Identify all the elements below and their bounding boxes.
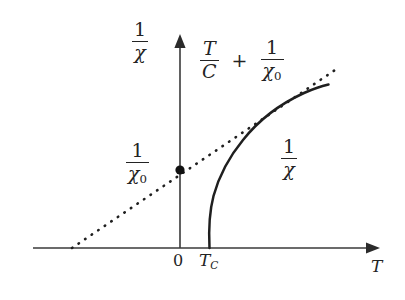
y-axis-label-fraction: 1 χ <box>132 20 148 63</box>
y-axis-arrow-icon <box>174 34 185 48</box>
y-intercept-fraction: 1 χ0 <box>126 141 149 186</box>
equation-term-one-denominator: C <box>200 60 219 82</box>
equation-plus-operator: + <box>225 51 255 70</box>
y-intercept-dot-marker <box>175 165 184 174</box>
equation-term-two-fraction: 1 χ0 <box>261 38 284 83</box>
equation-term-two-denominator: χ0 <box>261 59 284 83</box>
equation-term-one-numerator: T <box>200 39 219 60</box>
equation-term-two-subscript: 0 <box>274 69 282 83</box>
critical-temperature-subscript: C <box>210 259 218 271</box>
susceptibility-plot-figure: 1 χ T C + 1 χ0 1 χ0 1 χ 0 TC T <box>0 0 405 300</box>
curve-label-denominator: χ <box>281 158 297 180</box>
curve-label-fraction: 1 χ <box>281 137 297 180</box>
critical-temperature-symbol: T <box>199 250 210 270</box>
y-axis-label-denominator: χ <box>132 41 148 63</box>
x-axis-arrow-icon <box>366 243 380 254</box>
origin-tick-label: 0 <box>173 253 183 269</box>
y-intercept-numerator: 1 <box>126 141 149 162</box>
critical-temperature-tick-label: TC <box>199 252 218 270</box>
curve-label-numerator: 1 <box>281 137 297 158</box>
equation-term-one-fraction: T C <box>200 39 219 82</box>
equation-term-two-chi: χ <box>263 59 275 81</box>
y-intercept-label: 1 χ0 <box>126 141 149 186</box>
y-intercept-denominator: χ0 <box>126 162 149 186</box>
asymptote-equation-label: T C + 1 χ0 <box>200 38 284 83</box>
y-axis-label-numerator: 1 <box>132 20 148 41</box>
inverse-susceptibility-curve <box>209 85 328 249</box>
y-axis-label: 1 χ <box>132 20 148 63</box>
equation-term-two-numerator: 1 <box>261 38 284 59</box>
curve-label: 1 χ <box>281 137 297 180</box>
y-intercept-subscript: 0 <box>140 172 148 186</box>
x-axis-label: T <box>371 258 382 275</box>
y-intercept-chi: χ <box>128 162 140 184</box>
